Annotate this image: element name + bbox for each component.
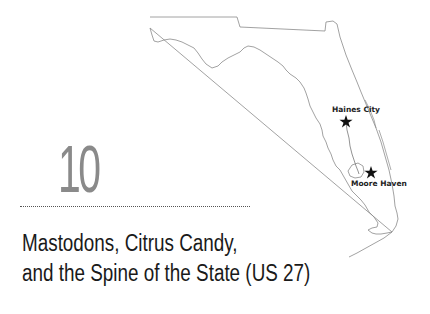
chapter-title-line-1: Mastodons, Citrus Candy, (22, 228, 284, 258)
city-label: Haines City (332, 105, 380, 114)
dotted-divider (20, 206, 250, 207)
chapter-title-line-2: and the Spine of the State (US 27) (22, 258, 284, 288)
chapter-title: Mastodons, Citrus Candy, and the Spine o… (22, 228, 284, 288)
chapter-number: 10 (58, 136, 99, 202)
star-icon (364, 166, 377, 179)
star-icon (339, 115, 352, 128)
us27-route (346, 122, 359, 174)
florida-outline (150, 17, 398, 257)
city-label: Moore Haven (351, 179, 407, 188)
